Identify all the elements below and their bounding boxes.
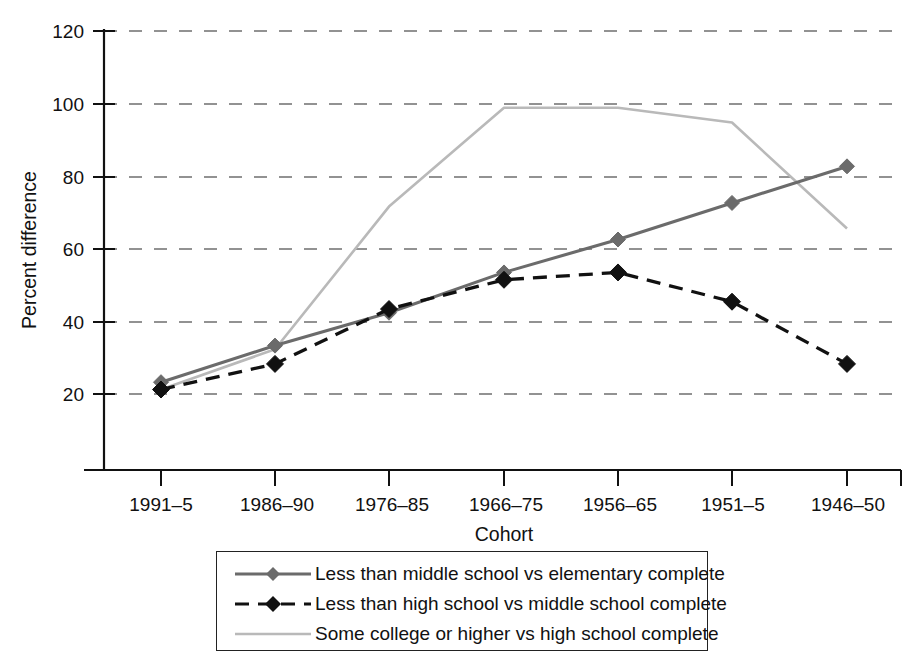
ytick-label-120: 120 [52, 21, 84, 42]
gridlines [104, 31, 900, 394]
xtick-label-1: 1986–90 [240, 494, 314, 515]
legend-item-2: Some college or higher vs high school co… [217, 619, 707, 649]
legend-label-1: Less than high school vs middle school c… [315, 589, 727, 619]
figure-container: 120 100 80 60 40 20 Percent difference 1… [0, 0, 923, 664]
xtick-label-4: 1956–65 [583, 494, 657, 515]
axes [84, 29, 901, 486]
series-1 [153, 264, 856, 398]
data-point-marker [611, 232, 626, 247]
x-axis-title: Cohort [475, 523, 534, 545]
ytick-label-40: 40 [63, 312, 84, 333]
data-point-marker [724, 293, 741, 310]
xtick-label-5: 1951–5 [701, 494, 764, 515]
data-point-marker [725, 195, 740, 210]
xtick-label-0: 1991–5 [129, 494, 192, 515]
legend-key-light-line-icon [231, 619, 315, 649]
data-point-marker [839, 355, 856, 372]
y-axis-title: Percent difference [18, 171, 40, 329]
legend-key-dashed-diamond-icon [231, 589, 315, 619]
legend-item-1: Less than high school vs middle school c… [217, 589, 707, 619]
chart-legend: Less than middle school vs elementary co… [216, 551, 708, 651]
y-tick-labels: 120 100 80 60 40 20 [52, 21, 84, 405]
ytick-label-60: 60 [63, 239, 84, 260]
data-point-marker [840, 159, 855, 174]
data-point-marker [610, 264, 627, 281]
xtick-label-2: 1976–85 [355, 494, 429, 515]
xtick-label-6: 1946–50 [811, 494, 885, 515]
xtick-label-3: 1966–75 [469, 494, 543, 515]
legend-item-0: Less than middle school vs elementary co… [217, 559, 707, 589]
ytick-label-80: 80 [63, 167, 84, 188]
ytick-label-20: 20 [63, 384, 84, 405]
ytick-label-100: 100 [52, 94, 84, 115]
legend-key-solid-diamond-icon [231, 559, 315, 589]
series-layer [153, 108, 856, 398]
legend-label-2: Some college or higher vs high school co… [315, 619, 718, 649]
series-line [161, 272, 847, 389]
x-tick-labels: 1991–5 1986–90 1976–85 1966–75 1956–65 1… [129, 494, 885, 515]
legend-label-0: Less than middle school vs elementary co… [315, 559, 725, 589]
data-point-marker [267, 355, 284, 372]
